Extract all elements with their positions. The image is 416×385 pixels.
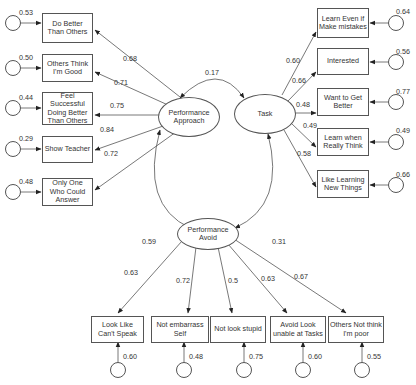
error-task-0: 0.64 <box>396 8 410 16</box>
error-pap-1: 0.50 <box>19 54 33 62</box>
error-term-circle <box>176 362 192 378</box>
factor-performance-avoid: Performance Avoid <box>177 218 239 250</box>
loading-pav-3: 0.63 <box>261 275 275 283</box>
indicator-do-better-than-others: Do Better Than Others <box>42 13 93 43</box>
loading-pap-3: 0.84 <box>100 126 114 134</box>
indicator-like-learning-new-things: Like Learning New Things <box>317 170 369 198</box>
indicator-interested: Interested <box>317 48 369 75</box>
error-pap-3: 0.29 <box>19 135 33 143</box>
indicator-avoid-look-unable: Avoid Look unable at Tasks <box>270 316 326 343</box>
indicator-only-one-who-could-answer: Only One Who Could Answer <box>42 178 93 206</box>
loading-pav-2: 0.5 <box>228 277 238 285</box>
indicator-others-not-think-poor: Others Not think I'm poor <box>328 316 384 343</box>
error-term-circle <box>5 184 21 200</box>
error-task-2: 0.77 <box>396 88 410 96</box>
loading-pav-0: 0.63 <box>124 269 138 277</box>
loading-task-0: 0.60 <box>286 57 300 65</box>
error-term-circle <box>236 362 252 378</box>
corr-pap-task: 0.17 <box>205 69 219 77</box>
error-pap-2: 0.44 <box>19 94 33 102</box>
error-term-circle <box>295 362 311 378</box>
error-term-circle <box>5 15 21 31</box>
indicator-not-embarrass-self: Not embarrass Self <box>151 316 209 343</box>
indicator-learn-even-if-mistakes: Learn Even if Make mistakes <box>317 8 369 38</box>
error-term-circle <box>388 15 404 31</box>
error-term-circle <box>5 60 21 76</box>
loading-pap-0: 0.68 <box>123 55 137 63</box>
error-term-circle <box>354 362 370 378</box>
indicator-want-to-get-better: Want to Get Better <box>317 88 369 116</box>
loading-pap-1: 0.71 <box>114 79 128 87</box>
error-task-1: 0.56 <box>396 48 410 56</box>
indicator-learn-when-really-think: Learn when Really Think <box>317 128 369 156</box>
indicator-look-like-cant-speak: Look Like Can't Speak <box>91 316 144 343</box>
error-pav-3: 0.60 <box>308 353 322 361</box>
factor-performance-approach: Performance Approach <box>158 97 220 137</box>
loading-task-4: 0.58 <box>297 150 311 158</box>
error-pap-4: 0.48 <box>19 178 33 186</box>
error-term-circle <box>388 54 404 70</box>
loading-task-3: 0.49 <box>303 122 317 130</box>
error-task-4: 0.66 <box>396 171 410 179</box>
indicator-not-look-stupid: Not look stupid <box>210 316 266 343</box>
corr-pap-pav: 0.59 <box>142 238 156 246</box>
error-term-circle <box>388 94 404 110</box>
loading-task-2: 0.48 <box>296 101 310 109</box>
error-pav-1: 0.48 <box>189 353 203 361</box>
indicator-show-teacher: Show Teacher <box>42 136 93 163</box>
error-task-3: 0.49 <box>396 127 410 135</box>
loading-pav-4: 0.67 <box>294 273 308 281</box>
error-pav-0: 0.60 <box>123 353 137 361</box>
corr-task-pav: 0.31 <box>272 238 286 246</box>
indicator-others-think-im-good: Others Think I'm Good <box>42 54 93 82</box>
error-pav-4: 0.55 <box>367 353 381 361</box>
loading-pap-2: 0.75 <box>110 102 124 110</box>
error-term-circle <box>388 134 404 150</box>
error-term-circle <box>5 141 21 157</box>
error-term-circle <box>388 177 404 193</box>
error-pav-2: 0.75 <box>249 353 263 361</box>
error-pap-0: 0.53 <box>19 9 33 17</box>
loading-task-1: 0.66 <box>292 77 306 85</box>
error-term-circle <box>110 362 126 378</box>
indicator-feel-successful: Feel Successful Doing Better Than Others <box>42 92 93 125</box>
factor-task: Task <box>234 94 296 134</box>
loading-pav-1: 0.72 <box>176 277 190 285</box>
error-term-circle <box>5 100 21 116</box>
loading-pap-4: 0.72 <box>104 150 118 158</box>
